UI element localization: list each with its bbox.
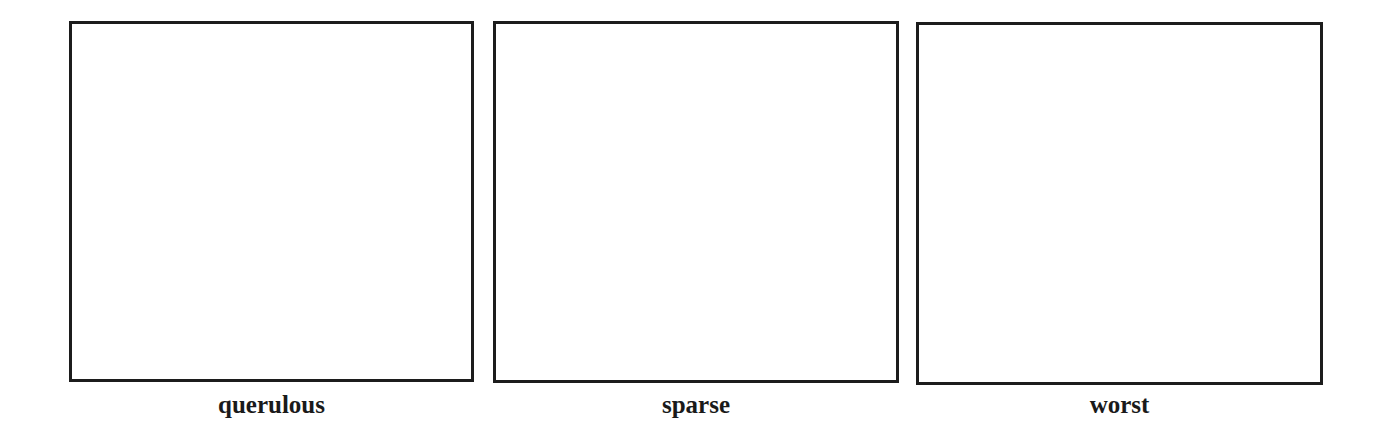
frame-caption-worst: worst: [916, 390, 1323, 420]
frame-caption-querulous: querulous: [69, 390, 474, 420]
empty-frame-sparse: [493, 21, 899, 383]
empty-frame-querulous: [69, 21, 474, 382]
empty-frame-worst: [916, 22, 1323, 385]
frame-caption-sparse: sparse: [493, 390, 899, 420]
